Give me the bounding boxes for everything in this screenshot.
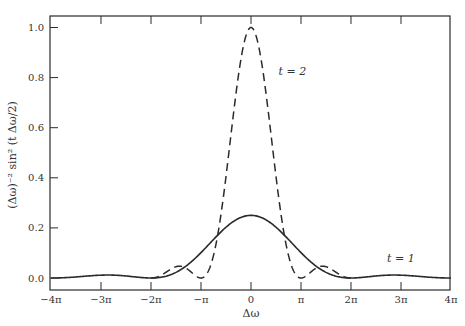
x-tick-label: −3π — [90, 294, 112, 305]
plot-frame — [50, 16, 450, 290]
chart: 0.00.20.40.60.81.0 −4π−3π−2π−π0π2π3π4π t… — [0, 0, 465, 326]
series-t1-line — [51, 215, 451, 278]
y-axis-ticks: 0.00.20.40.60.81.0 — [28, 22, 58, 284]
y-tick-label: 0.0 — [28, 273, 44, 284]
x-axis-title: Δω — [243, 307, 260, 320]
x-tick-label: 2π — [345, 294, 358, 305]
y-tick-label: 0.8 — [28, 72, 44, 83]
x-tick-label: −4π — [40, 294, 62, 305]
x-tick-label: 3π — [395, 294, 408, 305]
x-tick-label: 0 — [248, 294, 254, 305]
x-tick-label: π — [298, 294, 305, 305]
y-axis-title: (Δω)⁻² sin² (t Δω/2) — [6, 101, 19, 208]
y-tick-label: 1.0 — [28, 22, 44, 33]
series-t2-label: t = 2 — [279, 65, 307, 78]
x-tick-label: 4π — [445, 294, 458, 305]
y-tick-label: 0.4 — [28, 172, 44, 183]
x-tick-label: −2π — [140, 294, 162, 305]
x-tick-label: −π — [194, 294, 209, 305]
series-t1-label: t = 1 — [387, 252, 415, 265]
series-t2-line — [151, 28, 351, 279]
y-tick-label: 0.6 — [28, 122, 44, 133]
y-tick-label: 0.2 — [28, 222, 44, 233]
